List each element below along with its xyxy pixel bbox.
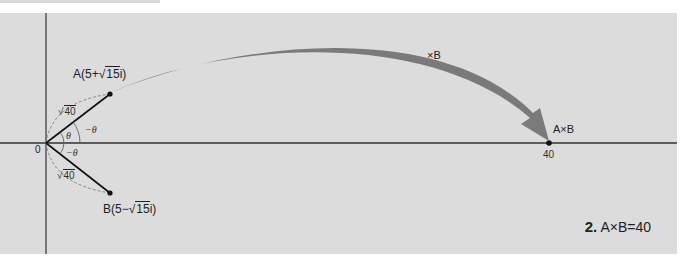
product-label: A×B	[553, 124, 574, 135]
vector-a	[46, 94, 110, 143]
angle-arc-neg-theta	[60, 143, 64, 154]
caption-number: 2.	[585, 218, 598, 235]
diagram-graphics	[0, 0, 681, 257]
angle-arc-outer	[73, 122, 80, 143]
neg-theta-upper-label: −θ	[85, 125, 97, 135]
caption-text: A×B=40	[600, 219, 651, 235]
product-tick-label: 40	[543, 150, 554, 160]
arrow-label: ×B	[427, 50, 441, 61]
caption: 2. A×B=40	[585, 218, 651, 235]
origin-label: 0	[35, 145, 41, 155]
point-product	[546, 140, 552, 146]
vector-b	[46, 143, 110, 193]
theta-label: θ	[66, 131, 71, 141]
neg-theta-lower-label: −θ	[66, 148, 78, 158]
angle-arc-theta	[60, 132, 64, 143]
multiply-arrow	[112, 48, 549, 141]
modulus-a-label: √40	[58, 107, 76, 117]
point-b	[107, 190, 112, 195]
point-a-label: A(5+√15i)	[73, 68, 126, 80]
modulus-b-label: √40	[57, 171, 75, 181]
point-a	[107, 91, 112, 96]
point-b-label: B(5−√15i)	[103, 203, 156, 215]
